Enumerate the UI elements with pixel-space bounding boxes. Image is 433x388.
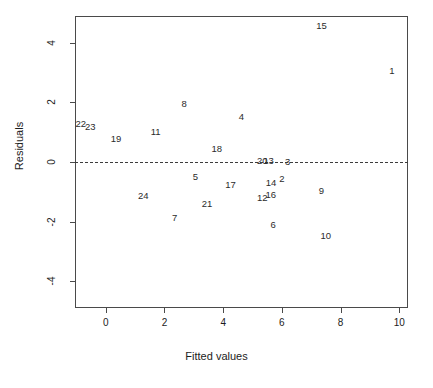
x-axis-tick [164,308,165,313]
x-axis-tick-label: 0 [103,317,109,328]
y-axis-tick [70,102,75,103]
x-axis-tick [341,308,342,313]
residuals-vs-fitted-plot: 151842223111918201335214179161224217610 … [0,0,433,388]
data-point-label: 23 [85,122,96,132]
data-point-label: 12 [257,193,268,203]
data-point-label: 3 [285,157,290,167]
data-point-label: 1 [389,66,394,76]
data-point-label: 4 [239,113,244,123]
data-point-label: 2 [279,174,284,184]
data-point-label: 19 [111,134,122,144]
y-axis-tick [70,222,75,223]
x-axis-tick-label: 2 [162,317,168,328]
data-point-label: 11 [151,127,161,137]
data-point-label: 7 [172,213,177,223]
y-axis-tick [70,162,75,163]
x-axis-tick [223,308,224,313]
data-point-label: 5 [193,173,198,183]
data-point-label: 21 [202,199,213,209]
x-axis-tick-label: 10 [394,317,405,328]
x-axis-tick-label: 4 [220,317,226,328]
y-axis-tick [70,43,75,44]
data-point-label: 9 [319,186,324,196]
data-point-label: 24 [138,191,149,201]
data-point-label: 17 [225,180,236,190]
data-point-label: 13 [263,157,274,167]
y-axis-title: Residuals [13,96,25,196]
data-point-label: 18 [211,144,222,154]
y-axis-tick-label: 4 [46,32,57,54]
x-axis-tick [106,308,107,313]
y-axis-tick-label: -4 [46,270,57,292]
x-axis-tick [399,308,400,313]
data-point-label: 15 [316,22,327,32]
x-axis-title: Fitted values [0,350,433,362]
x-axis-tick-label: 8 [338,317,344,328]
y-axis-tick-label: -2 [46,211,57,233]
data-point-label: 8 [181,99,186,109]
data-point-label: 14 [266,179,277,189]
x-axis-tick-label: 6 [279,317,285,328]
x-axis-tick [282,308,283,313]
data-points-layer: 151842223111918201335214179161224217610 [75,16,408,308]
y-axis-tick [70,281,75,282]
data-point-label: 10 [321,231,332,241]
data-point-label: 6 [270,220,275,230]
y-axis-tick-label: 2 [46,91,57,113]
y-axis-tick-label: 0 [46,151,57,173]
